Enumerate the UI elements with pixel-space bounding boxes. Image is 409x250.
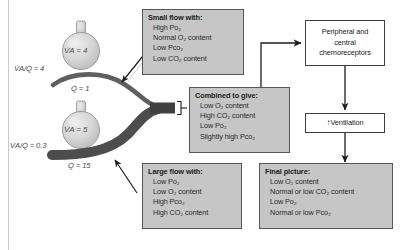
box-combined-line-4: Slightly high Pco₂ (195, 132, 285, 142)
trunk-to-combined-bracket (177, 102, 187, 115)
box-final-picture-title: Final picture: (265, 167, 388, 177)
vessel-top-small-flow (53, 74, 158, 107)
box-chemoreceptors-line-1: Peripheral and (322, 27, 369, 37)
label-perfusion-top: Q̇ = 1 (71, 84, 89, 93)
box-final-picture-line-3: Low Po₂ (265, 197, 388, 207)
box-large-flow-title: Large flow with: (148, 167, 237, 177)
label-alveolar-ventilation-bottom: V̇A = 5 (64, 125, 87, 134)
box-large-flow-line-2: Low O₂ content (148, 187, 237, 197)
box-small-flow: Small flow with: High Po₂ Normal O₂ cont… (142, 9, 244, 75)
box-large-flow-line-3: High Pco₂ (148, 197, 237, 207)
box-large-flow-line-1: Low Po₂ (148, 177, 237, 187)
label-alveolar-ventilation-top: V̇A = 4 (64, 46, 87, 55)
box-large-flow-line-4: High CO₂ content (148, 208, 237, 218)
box-final-picture-line-4: Normal or low Pco₂ (265, 208, 388, 218)
box-small-flow-line-3: Low Pco₂ (148, 43, 239, 53)
box-combined-title: Combined to give: (195, 91, 285, 101)
diagram-page: V̇A/Q̇ = 4 V̇A = 4 Q̇ = 1 V̇A/Q̇ = 0.3 V… (0, 0, 409, 250)
box-final-picture-line-1: Low O₂ content (265, 177, 388, 187)
box-final-picture-line-2: Normal or low CO₂ content (265, 187, 388, 197)
label-perfusion-bottom: Q̇ = 15 (68, 161, 90, 170)
box-small-flow-line-4: Low CO₂ content (148, 54, 239, 64)
box-chemoreceptors-line-2: central (334, 38, 355, 48)
box-combined: Combined to give: Low O₂ content High CO… (189, 87, 290, 153)
label-va-q-ratio-bottom: V̇A/Q̇ = 0.3 (10, 141, 46, 150)
box-ventilation-label: Ventilation (330, 118, 363, 128)
box-chemoreceptors: Peripheral and central chemoreceptors (305, 20, 385, 66)
box-combined-line-2: High CO₂ content (195, 111, 285, 121)
box-small-flow-title: Small flow with: (148, 13, 239, 23)
box-small-flow-line-1: High Po₂ (148, 23, 239, 33)
box-ventilation: ↑ Ventilation (305, 113, 385, 133)
box-combined-line-1: Low O₂ content (195, 101, 285, 111)
box-chemoreceptors-line-3: chemoreceptors (319, 48, 371, 58)
box-combined-line-3: Low Po₂ (195, 121, 285, 131)
box-final-picture: Final picture: Low O₂ content Normal or … (259, 163, 393, 229)
box-small-flow-line-2: Normal O₂ content (148, 33, 239, 43)
label-va-q-ratio-top: V̇A/Q̇ = 4 (14, 64, 44, 73)
connector-large-flow-to-vessel (115, 160, 137, 193)
box-large-flow: Large flow with: Low Po₂ Low O₂ content … (142, 163, 242, 229)
